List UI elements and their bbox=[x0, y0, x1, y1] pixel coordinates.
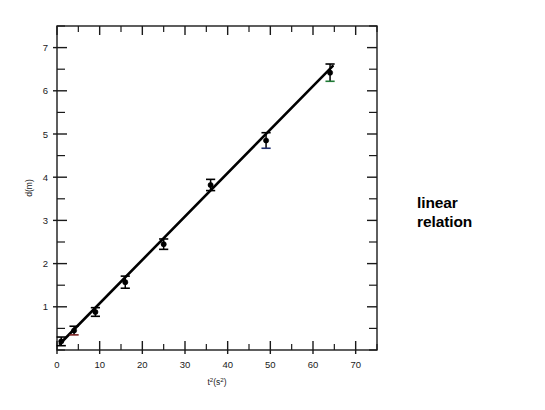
x-tick-label: 30 bbox=[180, 359, 191, 370]
fit-line bbox=[60, 66, 333, 344]
y-tick-label: 4 bbox=[43, 172, 48, 183]
chart-figure: 010203040506070 1234567 t2(s2) d(m) bbox=[0, 0, 400, 410]
x-tick-label: 70 bbox=[350, 359, 361, 370]
data-point bbox=[161, 242, 166, 247]
annotation-line-2: relation bbox=[417, 212, 537, 231]
y-tick-label: 1 bbox=[43, 301, 48, 312]
linear-relation-annotation: linear relation bbox=[417, 193, 537, 231]
x-tick-label: 60 bbox=[308, 359, 319, 370]
linear-fit-line bbox=[60, 66, 333, 344]
data-point bbox=[327, 70, 332, 75]
y-tick-label: 7 bbox=[43, 42, 48, 53]
y-tick-label: 3 bbox=[43, 215, 48, 226]
y-tick-label: 2 bbox=[43, 258, 48, 269]
y-axis-title: d(m) bbox=[24, 179, 34, 197]
y-axis-title-text: d(m) bbox=[24, 179, 34, 197]
x-axis-title: t2(s2) bbox=[207, 376, 226, 388]
y-axis-major-ticks bbox=[53, 48, 377, 307]
x-tick-label: 10 bbox=[94, 359, 105, 370]
y-tick-label: 6 bbox=[43, 85, 48, 96]
data-point bbox=[71, 328, 76, 333]
x-tick-label: 40 bbox=[222, 359, 233, 370]
x-tick-label: 0 bbox=[54, 359, 59, 370]
annotation-line-1: linear bbox=[417, 193, 537, 212]
x-axis-tick-labels: 010203040506070 bbox=[54, 359, 361, 370]
screenshot-root: 010203040506070 1234567 t2(s2) d(m) line… bbox=[0, 0, 545, 410]
x-tick-label: 20 bbox=[137, 359, 148, 370]
y-tick-label: 5 bbox=[43, 129, 48, 140]
data-point bbox=[93, 309, 98, 314]
x-axis-title-unit-open: (s bbox=[213, 377, 220, 387]
x-tick-label: 50 bbox=[265, 359, 276, 370]
data-point bbox=[123, 280, 128, 285]
y-axis-tick-labels: 1234567 bbox=[43, 42, 48, 312]
data-point bbox=[263, 138, 268, 143]
data-point bbox=[59, 339, 64, 344]
svg-text:t2(s2): t2(s2) bbox=[207, 376, 226, 388]
x-axis-title-unit-close: ) bbox=[224, 377, 227, 387]
data-point bbox=[208, 182, 213, 187]
linear-relation-plot: 010203040506070 1234567 t2(s2) d(m) bbox=[0, 0, 400, 410]
